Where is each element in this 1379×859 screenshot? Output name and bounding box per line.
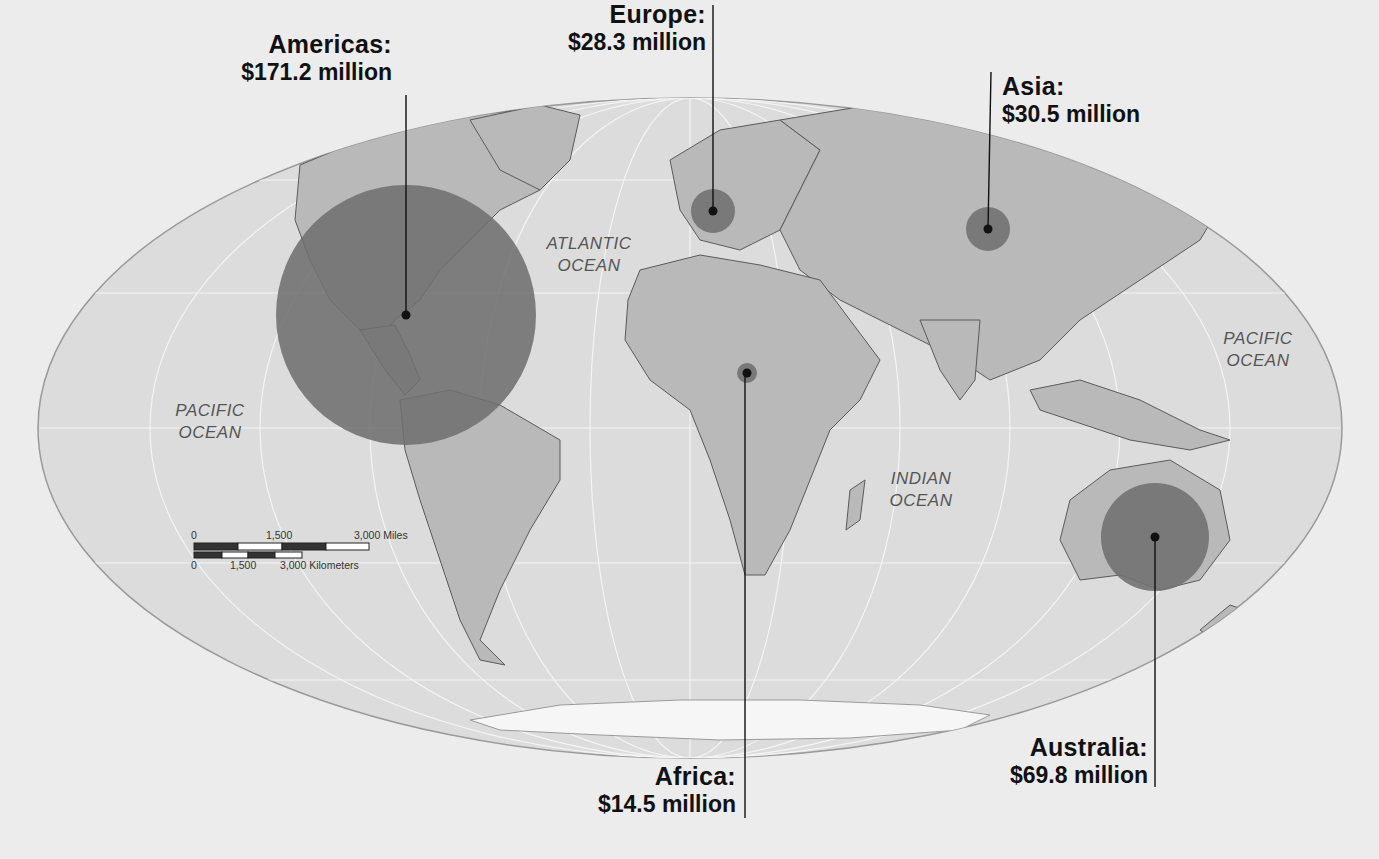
region-value: $14.5 million <box>540 791 736 817</box>
region-value: $30.5 million <box>1002 101 1140 127</box>
ocean-line: PACIFIC <box>175 401 244 420</box>
ocean-line: OCEAN <box>890 491 953 510</box>
region-name: Europe: <box>520 0 706 29</box>
scale-km-tick: 3,000 Kilometers <box>280 559 359 571</box>
label-asia: Asia: $30.5 million <box>1002 72 1140 127</box>
label-africa: Africa: $14.5 million <box>540 762 736 817</box>
scale-miles-tick: 0 <box>191 529 197 541</box>
label-australia: Australia: $69.8 million <box>940 733 1148 788</box>
region-name: Americas: <box>180 30 392 59</box>
ocean-label-atlantic: ATLANTIC OCEAN <box>534 233 644 277</box>
label-europe: Europe: $28.3 million <box>520 0 706 55</box>
ocean-label-pacific-west: PACIFIC OCEAN <box>155 400 265 444</box>
scale-km-tick: 1,500 <box>230 559 256 571</box>
region-value: $171.2 million <box>180 59 392 85</box>
ocean-line: OCEAN <box>558 256 621 275</box>
region-name: Australia: <box>940 733 1148 762</box>
scale-miles-tick: 1,500 <box>266 529 292 541</box>
region-value: $69.8 million <box>940 762 1148 788</box>
ocean-line: INDIAN <box>891 469 952 488</box>
ocean-line: ATLANTIC <box>547 234 632 253</box>
region-value: $28.3 million <box>520 29 706 55</box>
region-name: Asia: <box>1002 72 1140 101</box>
scale-km-tick: 0 <box>191 559 197 571</box>
ocean-line: PACIFIC <box>1223 329 1292 348</box>
ocean-line: OCEAN <box>179 423 242 442</box>
ocean-label-indian: INDIAN OCEAN <box>866 468 976 512</box>
region-name: Africa: <box>540 762 736 791</box>
ocean-line: OCEAN <box>1227 351 1290 370</box>
scale-miles-tick: 3,000 Miles <box>354 529 408 541</box>
label-americas: Americas: $171.2 million <box>180 30 392 85</box>
ocean-label-pacific-east: PACIFIC OCEAN <box>1203 328 1313 372</box>
